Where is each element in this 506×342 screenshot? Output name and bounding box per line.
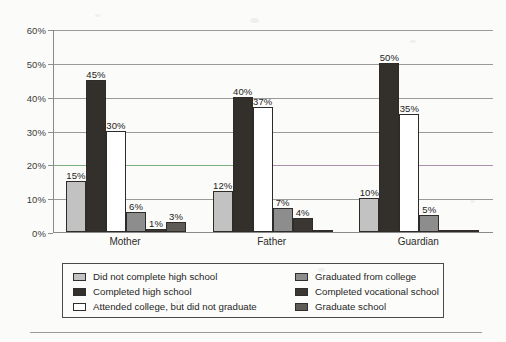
- bar-value-label: 4%: [296, 207, 310, 218]
- footer-divider: [30, 332, 482, 333]
- bar-value-label: 37%: [253, 96, 272, 107]
- plot-frame: 15%45%30%6%1%3%12%40%37%7%4%10%50%35%5%: [53, 30, 493, 233]
- legend-label: Completed high school: [93, 286, 192, 297]
- bar: 6%: [126, 212, 146, 232]
- bar: 30%: [106, 131, 126, 233]
- legend-swatch-icon: [295, 273, 308, 281]
- bar-value-label: 15%: [66, 170, 85, 181]
- bar: [439, 230, 459, 232]
- x-axis-label-mother: Mother: [109, 236, 140, 247]
- bar: 40%: [233, 97, 253, 232]
- legend-swatch-icon: [73, 288, 86, 296]
- legend-label: Did not complete high school: [93, 271, 217, 282]
- bar-value-label: 6%: [129, 201, 143, 212]
- bar: [459, 230, 479, 232]
- y-axis-tick-label: 0%: [32, 228, 46, 239]
- y-axis-tick-label: 10%: [27, 194, 46, 205]
- bar-group: 12%40%37%7%4%: [213, 30, 333, 232]
- bar: 4%: [293, 218, 313, 232]
- bar: 1%: [146, 229, 166, 232]
- bar-value-label: 45%: [86, 69, 105, 80]
- bar-value-label: 12%: [213, 180, 232, 191]
- legend-swatch-icon: [295, 288, 308, 296]
- legend-swatch-icon: [73, 273, 86, 281]
- legend-item[interactable]: Completed vocational school: [295, 284, 443, 299]
- bar-value-label: 40%: [233, 86, 252, 97]
- y-axis: 0%10%20%30%40%50%60%: [0, 0, 52, 250]
- legend-swatch-icon: [73, 303, 86, 311]
- y-axis-tick-label: 30%: [27, 126, 46, 137]
- bar: 50%: [379, 63, 399, 232]
- bar: 45%: [86, 80, 106, 232]
- bar: 3%: [166, 222, 186, 232]
- bar: 7%: [273, 208, 293, 232]
- legend-label: Completed vocational school: [315, 286, 439, 297]
- bar: 15%: [66, 181, 86, 232]
- scan-artifact: [175, 300, 183, 304]
- x-axis-label-guardian: Guardian: [398, 236, 439, 247]
- legend-item[interactable]: Did not complete high school: [73, 269, 288, 284]
- y-axis-tick-label: 60%: [27, 25, 46, 36]
- bar: 5%: [419, 215, 439, 232]
- legend-swatch-icon: [295, 303, 308, 311]
- scan-artifact: [410, 40, 416, 43]
- chart-legend: Did not complete high schoolCompleted hi…: [62, 263, 444, 318]
- scan-artifact: [470, 200, 475, 203]
- legend-column-right: Graduated from collegeCompleted vocation…: [295, 269, 443, 314]
- bar-value-label: 7%: [276, 197, 290, 208]
- bar-value-label: 50%: [380, 52, 399, 63]
- scan-artifact: [318, 268, 325, 272]
- legend-column-left: Did not complete high schoolCompleted hi…: [73, 269, 288, 314]
- y-axis-tick-label: 20%: [27, 160, 46, 171]
- legend-label: Graduated from college: [315, 271, 416, 282]
- bar-value-label: 5%: [422, 204, 436, 215]
- bar: [313, 230, 333, 232]
- scan-artifact: [95, 14, 100, 17]
- bar-value-label: 30%: [106, 120, 125, 131]
- x-axis-labels: MotherFatherGuardian: [53, 236, 493, 252]
- chart-page: 0%10%20%30%40%50%60% 15%45%30%6%1%3%12%4…: [0, 0, 506, 342]
- chart-plot-area: 0%10%20%30%40%50%60% 15%45%30%6%1%3%12%4…: [0, 0, 506, 250]
- bar-value-label: 35%: [400, 103, 419, 114]
- bar: 12%: [213, 191, 233, 232]
- bar-value-label: 1%: [149, 218, 163, 229]
- bar-value-label: 10%: [360, 187, 379, 198]
- bar: 35%: [399, 114, 419, 232]
- bar-group: 15%45%30%6%1%3%: [66, 30, 186, 232]
- bar: 10%: [359, 198, 379, 232]
- legend-item[interactable]: Completed high school: [73, 284, 288, 299]
- bar: 37%: [253, 107, 273, 232]
- y-axis-tick-mark: [48, 233, 53, 234]
- y-axis-tick-label: 40%: [27, 92, 46, 103]
- x-axis-label-father: Father: [257, 236, 286, 247]
- y-axis-tick-label: 50%: [27, 58, 46, 69]
- scan-artifact: [250, 18, 259, 23]
- bar-group: 10%50%35%5%: [359, 30, 479, 232]
- legend-item[interactable]: Graduate school: [295, 299, 443, 314]
- legend-label: Graduate school: [315, 301, 386, 312]
- bar-series-container: 15%45%30%6%1%3%12%40%37%7%4%10%50%35%5%: [54, 30, 493, 232]
- bar-value-label: 3%: [169, 211, 183, 222]
- legend-item[interactable]: Graduated from college: [295, 269, 443, 284]
